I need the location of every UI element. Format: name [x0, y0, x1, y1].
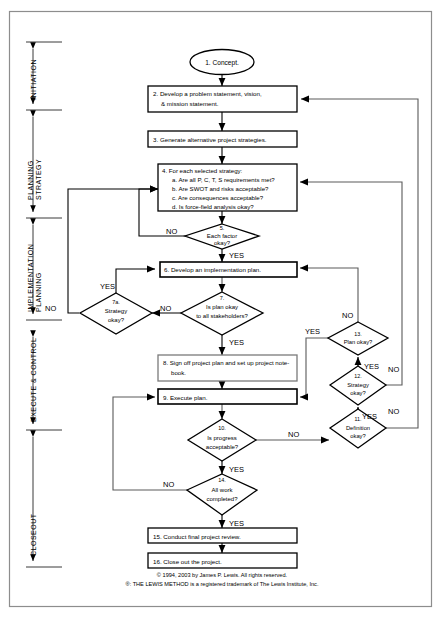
edge-12-no-to-4 — [300, 182, 402, 385]
node-3-label: 3. Generate alternative project strategi… — [153, 136, 267, 143]
phase-label-planning-strategy-line2: STRATEGY — [35, 159, 42, 200]
node-2-label-line2: & mission statement. — [161, 100, 219, 107]
node-7a-label-line2: Strategy — [105, 308, 127, 314]
node-10-label-line2: Is progress — [207, 435, 237, 441]
edge-label-12-yes: YES — [364, 362, 379, 371]
node-1-label: 1. Concept. — [205, 59, 239, 67]
node-9-execute-plan[interactable]: 9. Execute plan. — [158, 389, 297, 404]
edge-label-13-yes: YES — [305, 327, 320, 336]
phase-label-implementation-planning-line2: PLANNING — [35, 272, 42, 312]
node-8-sign-off-plan[interactable]: 8. Sign off project plan and set up proj… — [158, 355, 297, 381]
node-7-label-line2: Is plan okay — [206, 304, 238, 310]
edge-label-14-yes: YES — [229, 519, 244, 528]
node-4-label-line5: d. Is force-field analysis okay? — [172, 203, 254, 210]
node-12-strategy-okay[interactable]: 12. Strategy okay? — [330, 366, 386, 405]
node-12-label-line3: okay? — [350, 390, 366, 396]
node-10-label-line1: 10. — [218, 425, 226, 431]
node-6-label: 6. Develop an implementation plan. — [164, 266, 261, 273]
node-15-final-project-review[interactable]: 15. Conduct final project review. — [148, 528, 297, 543]
footer-copyright: © 1994, 2003 by James P. Lewis. All righ… — [157, 572, 288, 578]
node-2-label-line1: 2. Develop a problem statement, vision, — [153, 90, 262, 97]
edge-label-11-yes: YES — [362, 412, 377, 421]
node-4-evaluate-strategy[interactable]: 4. For each selected strategy: a. Are al… — [158, 164, 297, 211]
node-13-label-line2: Plan okay? — [344, 339, 373, 345]
phase-label-implementation-planning-line1: IMPLEMENTATION — [27, 244, 34, 312]
node-11-label-line1: 11. — [355, 416, 362, 422]
node-7-label-line3: to all stakeholders? — [196, 313, 248, 319]
edge-label-7-yes: YES — [229, 338, 244, 347]
node-4-label-line1: 4. For each selected strategy: — [162, 167, 243, 174]
node-1-concept[interactable]: 1. Concept. — [190, 50, 254, 75]
node-10-label-line3: acceptable? — [206, 444, 239, 450]
node-11-label-line3: okay? — [350, 433, 366, 439]
node-15-label: 15. Conduct final project review. — [153, 533, 241, 540]
edge-13-yes-to-9 — [300, 338, 331, 397]
edge-label-7-no: NO — [160, 304, 171, 313]
node-7a-label-line1: 7a. — [112, 299, 120, 305]
node-8-label-line2: book. — [171, 369, 186, 376]
node-11-label-line2: Definition — [346, 425, 370, 431]
edge-label-5-no: NO — [166, 227, 177, 236]
node-5-label-line3: okay? — [214, 240, 231, 246]
node-7a-strategy-okay[interactable]: 7a. Strategy okay? — [80, 293, 152, 334]
node-6-implementation-plan[interactable]: 6. Develop an implementation plan. — [160, 262, 297, 277]
phase-label-initiation: INITIATION — [30, 59, 37, 100]
node-4-label-line2: a. Are all P, C, T, S requirements met? — [172, 176, 275, 183]
node-5-each-factor-okay[interactable]: 5. Each factor okay? — [185, 224, 259, 249]
edge-label-12-no: NO — [388, 365, 399, 374]
node-14-label-line3: completed? — [206, 496, 238, 502]
node-10-progress-acceptable[interactable]: 10. Is progress acceptable? — [188, 419, 256, 461]
edge-label-10-yes: YES — [229, 465, 244, 474]
node-5-label-line1: 5. — [220, 225, 225, 231]
edge-14-no-to-9 — [113, 397, 192, 490]
node-12-label-line2: Strategy — [347, 382, 369, 388]
edge-label-14-no: NO — [163, 480, 174, 489]
node-7-label-line1: 7. — [220, 295, 225, 301]
flowchart-canvas: INITIATION PLANNING STRATEGY IMPLEMENTAT… — [0, 0, 444, 619]
phase-label-closeout: CLOSEOUT — [30, 513, 37, 556]
node-16-close-out-project[interactable]: 16. Close out the project. — [148, 553, 297, 568]
node-9-label: 9. Execute plan. — [163, 394, 208, 401]
node-16-label: 16. Close out the project. — [153, 558, 222, 565]
node-11-definition-okay[interactable]: 11. Definition okay? — [330, 409, 386, 448]
edge-label-10-no: NO — [288, 430, 299, 439]
edge-label-7a-yes: YES — [100, 282, 115, 291]
phase-label-planning-strategy-line1: PLANNING — [27, 160, 34, 200]
node-12-label-line1: 12. — [354, 373, 361, 379]
node-3-alternative-strategies[interactable]: 3. Generate alternative project strategi… — [148, 131, 297, 147]
node-14-all-work-completed[interactable]: 14. All work completed? — [187, 474, 257, 515]
node-4-label-line3: b. Are SWOT and risks acceptable? — [172, 185, 269, 192]
node-8-label-line1: 8. Sign off project plan and set up proj… — [163, 359, 289, 366]
node-7-plan-okay-stakeholders[interactable]: 7. Is plan okay to all stakeholders? — [181, 292, 263, 335]
node-13-plan-okay[interactable]: 13. Plan okay? — [328, 322, 388, 355]
node-14-label-line1: 14. — [218, 477, 226, 483]
node-13-label-line1: 13. — [354, 331, 361, 337]
node-5-label-line2: Each factor — [207, 233, 237, 239]
edge-label-11-no: NO — [388, 407, 399, 416]
footer-trademark: ®: THE LEWIS METHOD is a registered trad… — [126, 581, 319, 587]
node-14-label-line2: All work — [211, 487, 233, 493]
node-7a-label-line3: okay? — [108, 317, 125, 323]
node-4-label-line4: c. Are consequences acceptable? — [172, 194, 264, 201]
edge-label-7a-no: NO — [45, 304, 56, 313]
edge-label-5-yes: YES — [229, 251, 244, 260]
node-2-problem-statement[interactable]: 2. Develop a problem statement, vision, … — [148, 86, 297, 112]
edge-label-13-no: NO — [342, 311, 353, 320]
phase-label-execute-control: EXECUTE & CONTROL — [30, 338, 37, 422]
